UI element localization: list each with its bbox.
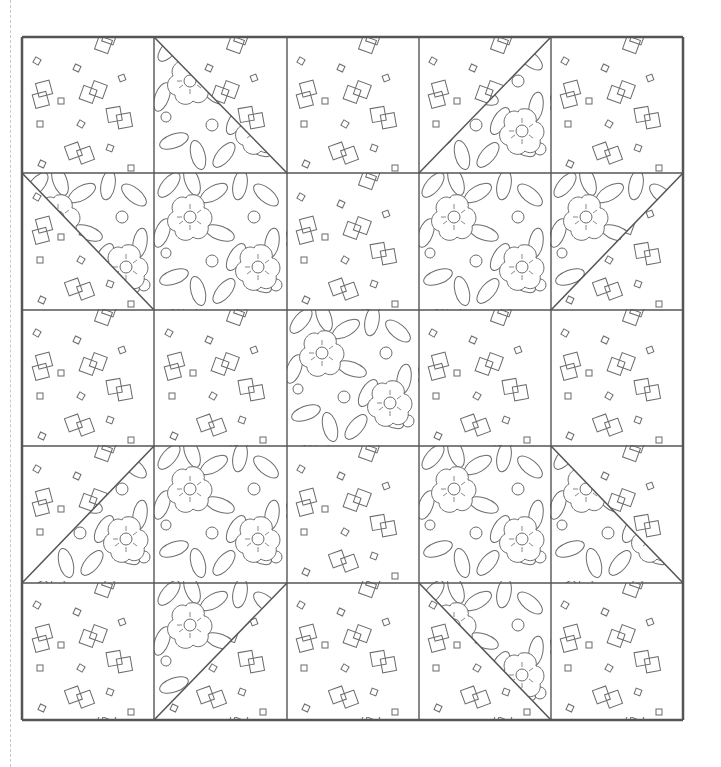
patch-squares	[287, 446, 419, 583]
patch-squares	[419, 310, 551, 446]
patch-squares	[22, 37, 154, 173]
patch-squares	[551, 310, 683, 446]
patch-squares	[154, 310, 287, 446]
patch-squares	[287, 583, 419, 720]
patch-floral	[154, 173, 287, 310]
patch-squares	[287, 37, 419, 173]
quilt-cells	[22, 37, 683, 720]
patch-squares	[22, 310, 154, 446]
patch-squares	[551, 583, 683, 720]
patch-squares	[551, 37, 683, 173]
patch-floral	[419, 446, 551, 583]
patch-floral	[154, 446, 287, 583]
patch-squares	[22, 583, 154, 720]
patch-squares	[287, 173, 419, 310]
patch-floral	[419, 173, 551, 310]
patch-floral	[287, 310, 419, 446]
quilt-block	[0, 0, 721, 767]
